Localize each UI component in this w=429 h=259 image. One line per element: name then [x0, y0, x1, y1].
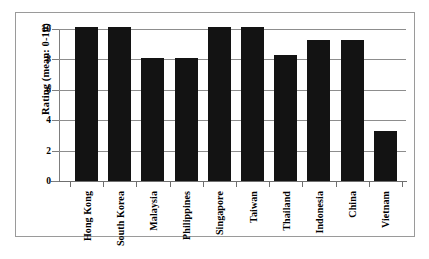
- y-tick-mark-8: [52, 59, 59, 60]
- bar-philippines[interactable]: [175, 58, 198, 181]
- x-tick-mark-6: [269, 182, 270, 187]
- x-label-wrap-9: Vietnam: [374, 191, 397, 201]
- x-axis-label-singapore: Singapore: [214, 191, 225, 235]
- x-label-wrap-1: South Korea: [108, 191, 131, 201]
- x-label-wrap-3: Philippines: [175, 191, 198, 201]
- chart-frame: Rating (mean: 0-10) 0246810 Hong KongSou…: [15, 12, 415, 237]
- y-tick-label-4: 4: [29, 116, 51, 125]
- bar-south-korea[interactable]: [108, 27, 131, 181]
- x-tick-mark-0: [70, 182, 71, 187]
- x-axis-line: [51, 181, 407, 182]
- x-axis-label-south-korea: South Korea: [114, 191, 125, 246]
- y-tick-label-2: 2: [29, 147, 51, 156]
- y-tick-label-8: 8: [29, 55, 51, 64]
- y-axis-line: [59, 29, 60, 182]
- x-axis-label-malaysia: Malaysia: [147, 191, 158, 231]
- x-label-wrap-7: Indonesia: [307, 191, 330, 201]
- x-tick-mark-2: [136, 182, 137, 187]
- x-label-wrap-2: Malaysia: [141, 191, 164, 201]
- y-tick-mark-10: [52, 29, 59, 30]
- x-tick-mark-3: [170, 182, 171, 187]
- y-tick-mark-0: [52, 181, 59, 182]
- x-tick-mark-7: [302, 182, 303, 187]
- plot-area: 0246810 Hong KongSouth KoreaMalaysiaPhil…: [59, 29, 406, 181]
- x-axis-label-china: China: [347, 191, 358, 218]
- x-tick-mark-5: [236, 182, 237, 187]
- x-tick-mark-1: [103, 182, 104, 187]
- bar-indonesia[interactable]: [307, 40, 330, 181]
- x-tick-mark-8: [336, 182, 337, 187]
- x-tick-mark-end: [402, 182, 403, 187]
- bar-thailand[interactable]: [274, 55, 297, 181]
- x-axis-label-philippines: Philippines: [181, 191, 192, 240]
- x-axis-label-taiwan: Taiwan: [247, 191, 258, 223]
- y-tick-mark-2: [52, 151, 59, 152]
- x-tick-mark-4: [203, 182, 204, 187]
- bar-taiwan[interactable]: [241, 27, 264, 181]
- y-tick-label-10: 10: [29, 25, 51, 34]
- x-label-wrap-6: Thailand: [274, 191, 297, 201]
- x-label-wrap-5: Taiwan: [241, 191, 264, 201]
- y-tick-label-0: 0: [29, 177, 51, 186]
- y-tick-mark-4: [52, 120, 59, 121]
- bar-singapore[interactable]: [208, 27, 231, 181]
- x-label-wrap-8: China: [341, 191, 364, 201]
- y-tick-label-6: 6: [29, 86, 51, 95]
- x-axis-label-vietnam: Vietnam: [380, 191, 391, 228]
- x-label-wrap-4: Singapore: [208, 191, 231, 201]
- bar-hong-kong[interactable]: [75, 27, 98, 181]
- x-axis-label-hong-kong: Hong Kong: [81, 191, 92, 241]
- x-tick-mark-9: [369, 182, 370, 187]
- x-label-wrap-0: Hong Kong: [75, 191, 98, 201]
- bar-malaysia[interactable]: [141, 58, 164, 181]
- y-tick-mark-6: [52, 90, 59, 91]
- x-axis-label-indonesia: Indonesia: [313, 191, 324, 234]
- bar-vietnam[interactable]: [374, 131, 397, 181]
- bar-china[interactable]: [341, 40, 364, 181]
- x-axis-label-thailand: Thailand: [280, 191, 291, 231]
